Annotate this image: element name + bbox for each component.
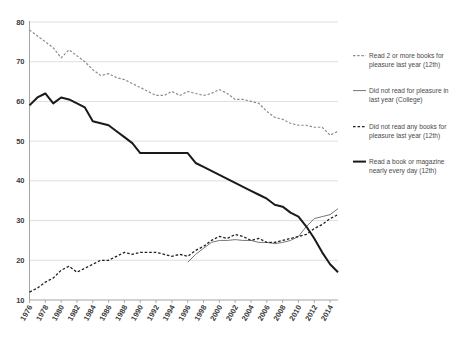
x-tick-label-1994: 1994 [161,303,178,323]
y-tick-label-30: 30 [16,216,24,225]
chart-container: 1020304050607080 19761978198019821984198… [0,0,471,338]
series-line-1 [188,209,338,263]
x-tick-label-2014: 2014 [319,303,336,323]
series-line-3 [30,93,339,272]
x-tick-label-1980: 1980 [50,304,66,323]
series-line-2 [30,215,339,292]
x-tick-label-2010: 2010 [287,304,303,323]
y-tick-label-50: 50 [16,137,24,146]
legend-label-1-line2: last year (College) [369,96,423,104]
x-tick-label-2008: 2008 [271,304,287,323]
series-line-0 [30,30,339,135]
gridlines [30,22,339,260]
x-tick-label-1986: 1986 [97,304,113,323]
chart-legend: Read 2 or more books forpleasure last ye… [353,52,449,175]
reading-trends-line-chart: 1020304050607080 19761978198019821984198… [0,0,471,338]
x-tick-label-2006: 2006 [256,304,272,323]
x-axis-tick-labels: 1976197819801982198419861988199019921994… [18,300,335,322]
x-tick-label-1988: 1988 [113,304,129,323]
x-tick-label-2012: 2012 [303,304,319,323]
legend-label-0-line2: pleasure last year (12th) [369,61,440,69]
axes [30,21,339,300]
legend-label-3-line1: Read a book or magazine [369,158,445,166]
y-tick-label-40: 40 [16,176,24,185]
x-tick-label-1990: 1990 [129,304,145,323]
x-tick-label-1992: 1992 [145,304,161,323]
y-tick-label-80: 80 [16,18,24,27]
x-tick-label-2000: 2000 [208,304,224,323]
x-tick-label-1982: 1982 [66,304,82,323]
y-tick-label-20: 20 [16,256,24,265]
legend-label-0-line1: Read 2 or more books for [369,52,445,59]
legend-label-1-line1: Did not read for pleasure in [369,87,449,95]
legend-label-2-line2: pleasure last year (12th) [369,132,440,140]
legend-label-2-line1: Did not read any books for [369,123,447,131]
data-series [30,30,339,292]
x-tick-label-1984: 1984 [82,303,99,323]
y-tick-label-70: 70 [16,57,24,66]
x-tick-label-2002: 2002 [224,304,240,323]
x-tick-label-1998: 1998 [192,304,208,323]
x-tick-label-1976: 1976 [18,304,34,323]
x-tick-label-2004: 2004 [240,303,257,323]
legend-label-3-line2: nearly every day (12th) [369,167,436,175]
y-tick-label-60: 60 [16,97,24,106]
x-tick-label-1996: 1996 [176,304,192,323]
y-tick-label-10: 10 [16,296,24,305]
y-axis-tick-labels: 1020304050607080 [16,18,24,305]
x-tick-label-1978: 1978 [34,304,50,323]
